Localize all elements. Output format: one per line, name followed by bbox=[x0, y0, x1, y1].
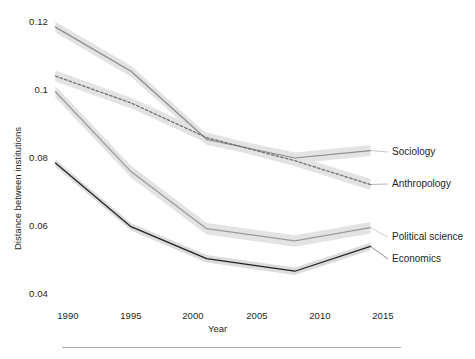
label-connector-anthropology bbox=[370, 184, 388, 185]
series-label-political-science: Political science bbox=[392, 231, 463, 242]
x-tick-label-2005: 2005 bbox=[237, 310, 277, 321]
x-tick-label-2010: 2010 bbox=[300, 310, 340, 321]
label-connector-political-science bbox=[370, 228, 388, 237]
label-connector-sociology bbox=[370, 151, 388, 152]
series-label-economics: Economics bbox=[392, 253, 441, 264]
x-axis-title: Year bbox=[208, 323, 227, 334]
series-line-economics bbox=[55, 163, 370, 271]
y-tick-label-0.04: 0.04 bbox=[18, 288, 48, 299]
y-tick-label-0.1: 0.1 bbox=[18, 84, 48, 95]
series-label-anthropology: Anthropology bbox=[392, 178, 451, 189]
confidence-band-economics bbox=[55, 159, 370, 275]
x-tick-label-2000: 2000 bbox=[173, 310, 213, 321]
x-tick-label-2015: 2015 bbox=[363, 310, 403, 321]
chart-figure: 0.12 0.1 0.08 0.06 0.04 1990 1995 2000 2… bbox=[0, 0, 475, 359]
footer-divider bbox=[62, 347, 401, 348]
x-tick-label-1995: 1995 bbox=[111, 310, 151, 321]
confidence-bands-group bbox=[55, 22, 370, 275]
confidence-band-anthropology bbox=[55, 71, 370, 190]
series-label-sociology: Sociology bbox=[392, 146, 435, 157]
x-tick-label-1990: 1990 bbox=[48, 310, 88, 321]
y-axis-title: Distance between institutions bbox=[12, 127, 23, 250]
label-connector-economics bbox=[370, 246, 388, 259]
y-tick-label-0.12: 0.12 bbox=[18, 16, 48, 27]
